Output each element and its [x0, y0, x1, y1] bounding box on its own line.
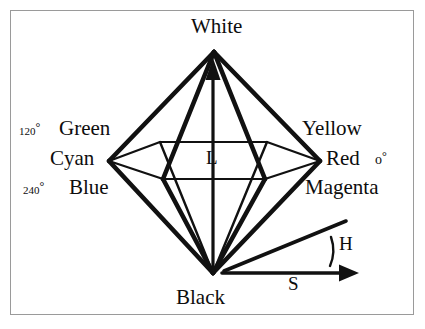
- hue-angle-label-120: 120°: [19, 121, 40, 139]
- degree-sign-icon: °: [40, 179, 45, 193]
- vertex-label-blue: Blue: [69, 177, 109, 198]
- hue-angle-120-value: 120: [19, 125, 36, 137]
- vertex-label-cyan: Cyan: [50, 148, 94, 169]
- axis-label-lightness: L: [206, 148, 218, 167]
- hue-angle-240-value: 240: [23, 184, 40, 196]
- vertex-label-white: White: [191, 16, 242, 37]
- figure-canvas: White Black Green Cyan Blue Yellow Red M…: [0, 0, 425, 329]
- vertex-label-black: Black: [176, 287, 225, 308]
- vertex-label-red: Red: [326, 148, 360, 169]
- degree-sign-icon: °: [36, 120, 41, 134]
- vertex-label-magenta: Magenta: [305, 177, 378, 198]
- hue-angle-label-0: o°: [375, 150, 387, 168]
- hue-ray: [224, 221, 346, 271]
- degree-sign-icon: °: [382, 149, 387, 163]
- hue-angle-0-value: o: [375, 152, 382, 167]
- hue-angle-arc: [330, 237, 333, 266]
- axis-label-saturation: S: [288, 274, 299, 293]
- vertex-label-green: Green: [59, 118, 110, 139]
- vertex-label-yellow: Yellow: [302, 118, 362, 139]
- axis-label-hue: H: [339, 234, 353, 253]
- hue-angle-label-240: 240°: [23, 180, 44, 198]
